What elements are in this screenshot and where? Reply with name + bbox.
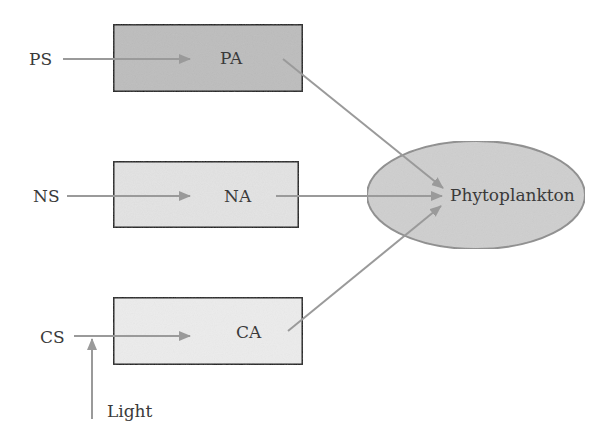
- light-label: Light: [107, 401, 153, 421]
- box-ca-label: CA: [236, 322, 262, 342]
- source-ns-label: NS: [33, 186, 60, 206]
- box-na: NA: [113, 161, 299, 228]
- phytoplankton-label: Phytoplankton: [450, 185, 575, 205]
- source-ps-label: PS: [29, 49, 52, 69]
- box-pa-label: PA: [220, 48, 243, 68]
- arrow-ca-to-phytoplankton: [288, 206, 441, 331]
- diagram-canvas: PA NA CA Phytoplankton PS NS CS Light: [0, 0, 613, 447]
- arrow-pa-to-phytoplankton: [283, 59, 443, 188]
- source-cs-label: CS: [40, 327, 65, 347]
- box-ca: CA: [113, 297, 303, 365]
- box-na-label: NA: [224, 186, 252, 206]
